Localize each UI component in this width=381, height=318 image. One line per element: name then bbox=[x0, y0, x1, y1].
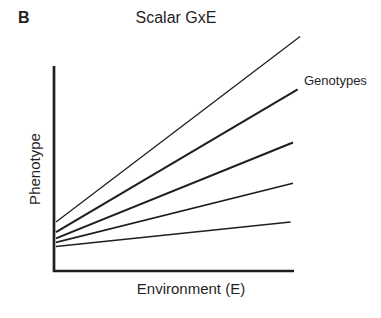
chart-canvas bbox=[0, 0, 381, 318]
genotype-lines bbox=[56, 36, 300, 246]
reaction-norm-line-genotype-1 bbox=[56, 36, 300, 222]
reaction-norm-line-genotype-2 bbox=[56, 89, 298, 232]
reaction-norm-line-genotype-3 bbox=[56, 143, 293, 239]
axes bbox=[54, 66, 294, 271]
scalar-gxe-figure-panel: B Scalar GxE Genotypes Phenotype Environ… bbox=[0, 0, 381, 318]
